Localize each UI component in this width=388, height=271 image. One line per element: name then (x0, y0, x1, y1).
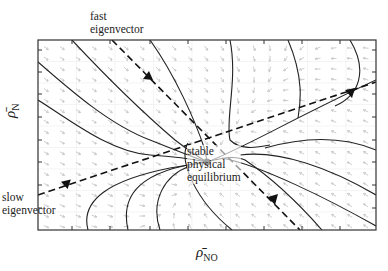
vector-field (44, 46, 369, 229)
equilibrium-label: stable physical equilibrium (187, 145, 241, 184)
phase-portrait (0, 0, 388, 271)
x-axis-label: ρ̄NO (196, 244, 218, 263)
y-axis-label: ρ̄N (2, 104, 21, 118)
fast-eigenvector-label: fast eigenvector (90, 10, 144, 36)
slow-eigenvector-label: slow eigenvector (2, 191, 56, 217)
